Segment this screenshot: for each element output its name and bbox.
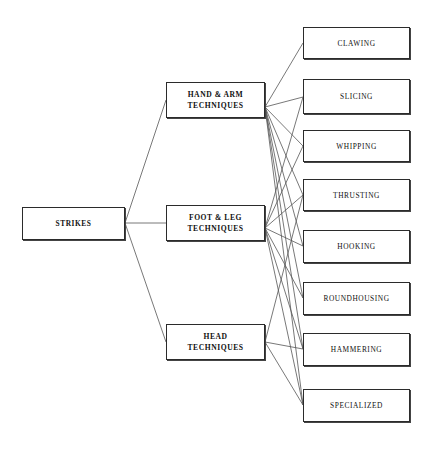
node-head[interactable]: HEAD TECHNIQUES (166, 324, 265, 360)
node-foot-leg[interactable]: FOOT & LEG TECHNIQUES (166, 205, 265, 241)
edge-foot-leg-to-hammering (265, 228, 303, 349)
edge-strikes-to-head (125, 223, 166, 342)
edge-hand-arm-to-hooking (265, 107, 303, 246)
edge-hand-arm-to-slicing (265, 97, 303, 107)
node-label-roundhousing: ROUNDHOUSING (320, 293, 392, 304)
node-label-clawing: CLAWING (334, 38, 378, 49)
edge-foot-leg-to-thrusting (265, 195, 303, 228)
edge-foot-leg-to-slicing (265, 97, 303, 228)
node-label-slicing: SLICING (337, 91, 376, 102)
node-whipping[interactable]: WHIPPING (303, 130, 410, 162)
node-clawing[interactable]: CLAWING (303, 27, 410, 59)
edge-hand-arm-to-clawing (265, 43, 303, 107)
edge-head-to-specialized (265, 342, 303, 405)
node-roundhousing[interactable]: ROUNDHOUSING (303, 282, 410, 315)
node-label-foot-leg: FOOT & LEG TECHNIQUES (184, 212, 246, 234)
edge-head-to-hammering (265, 342, 303, 349)
node-thrusting[interactable]: THRUSTING (303, 179, 410, 211)
node-specialized[interactable]: SPECIALIZED (303, 389, 410, 422)
node-label-specialized: SPECIALIZED (327, 400, 386, 411)
node-label-whipping: WHIPPING (333, 141, 380, 152)
node-label-thrusting: THRUSTING (330, 190, 383, 201)
node-hooking[interactable]: HOOKING (303, 230, 410, 263)
node-label-hand-arm: HAND & ARM TECHNIQUES (184, 89, 246, 111)
node-strikes[interactable]: STRIKES (22, 207, 125, 240)
edge-foot-leg-to-hooking (265, 228, 303, 246)
node-hammering[interactable]: HAMMERING (303, 333, 410, 366)
edge-hand-arm-to-hammering (265, 107, 303, 349)
node-label-head: HEAD TECHNIQUES (184, 331, 246, 353)
node-label-strikes: STRIKES (53, 218, 95, 229)
node-label-hammering: HAMMERING (328, 344, 385, 355)
strikes-taxonomy-diagram: STRIKES HAND & ARM TECHNIQUES FOOT & LEG… (0, 0, 435, 452)
node-slicing[interactable]: SLICING (303, 79, 410, 114)
edge-strikes-to-hand-arm (125, 100, 166, 223)
node-label-hooking: HOOKING (334, 241, 378, 252)
node-hand-arm[interactable]: HAND & ARM TECHNIQUES (166, 82, 265, 118)
